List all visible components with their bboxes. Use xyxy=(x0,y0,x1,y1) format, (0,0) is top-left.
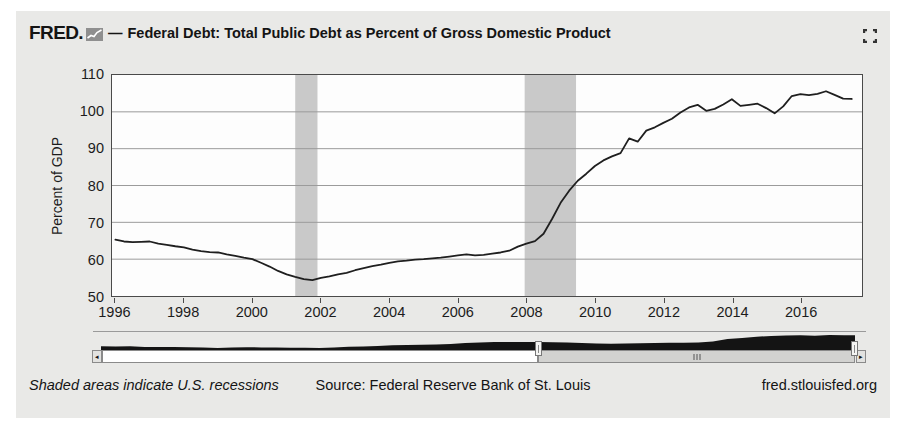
preview-area xyxy=(101,335,855,350)
x-tick-label: 2014 xyxy=(710,304,756,320)
fred-graph-icon xyxy=(86,28,103,41)
left-arrow-glyph: ◂ xyxy=(95,353,99,360)
plot-area[interactable] xyxy=(111,74,863,297)
x-tick-mark xyxy=(389,298,390,303)
x-tick-label: 2008 xyxy=(503,304,549,320)
chart-title: Federal Debt: Total Public Debt as Perce… xyxy=(128,25,611,41)
range-handle-right[interactable] xyxy=(851,341,858,356)
x-tick-mark xyxy=(595,298,596,303)
site-link[interactable]: fred.stlouisfed.org xyxy=(762,377,877,393)
y-tick-label: 50 xyxy=(66,289,104,305)
x-tick-mark xyxy=(526,298,527,303)
y-tick-label: 70 xyxy=(66,215,104,231)
fullscreen-icon[interactable] xyxy=(862,28,877,43)
source-text: Source: Federal Reserve Bank of St. Loui… xyxy=(16,377,890,393)
thumb-grip-icon xyxy=(693,354,700,360)
scrollbar-left-arrow[interactable]: ◂ xyxy=(92,350,102,363)
plot-canvas[interactable] xyxy=(112,75,862,296)
scrollbar-thumb[interactable] xyxy=(538,350,855,363)
x-tick-mark xyxy=(114,298,115,303)
right-arrow-glyph: ▸ xyxy=(859,353,863,360)
x-tick-mark xyxy=(252,298,253,303)
x-tick-mark xyxy=(458,298,459,303)
y-tick-label: 110 xyxy=(66,66,104,82)
fred-chart-widget: FRED. — Federal Debt: Total Public Debt … xyxy=(16,11,890,418)
x-tick-label: 2006 xyxy=(435,304,481,320)
x-tick-label: 2010 xyxy=(572,304,618,320)
x-tick-label: 2016 xyxy=(778,304,824,320)
x-tick-mark xyxy=(320,298,321,303)
y-tick-label: 100 xyxy=(66,103,104,119)
chart-header: FRED. — Federal Debt: Total Public Debt … xyxy=(29,20,611,46)
x-tick-label: 2004 xyxy=(366,304,412,320)
x-tick-label: 1996 xyxy=(91,304,137,320)
range-preview-chart[interactable] xyxy=(101,333,855,350)
x-tick-label: 2012 xyxy=(641,304,687,320)
y-tick-label: 80 xyxy=(66,178,104,194)
x-tick-label: 1998 xyxy=(160,304,206,320)
x-tick-label: 2002 xyxy=(297,304,343,320)
scrollbar-track[interactable] xyxy=(102,350,538,363)
range-handle-left[interactable] xyxy=(535,341,542,356)
fred-logo[interactable]: FRED. xyxy=(29,22,83,44)
title-separator: — xyxy=(108,25,123,41)
x-tick-label: 2000 xyxy=(229,304,275,320)
x-tick-mark xyxy=(801,298,802,303)
y-tick-label: 90 xyxy=(66,140,104,156)
y-axis-label: Percent of GDP xyxy=(49,74,65,297)
slider-top-border xyxy=(93,331,866,332)
x-tick-mark xyxy=(183,298,184,303)
y-tick-label: 60 xyxy=(66,252,104,268)
x-tick-mark xyxy=(664,298,665,303)
x-tick-mark xyxy=(733,298,734,303)
